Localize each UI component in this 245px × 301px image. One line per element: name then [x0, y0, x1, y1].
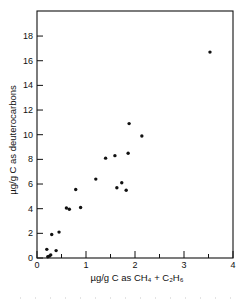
- y-tick-label: 16: [23, 56, 33, 66]
- y-tick-label: 2: [28, 228, 33, 238]
- y-tick-label: 6: [28, 179, 33, 189]
- data-point: [113, 154, 116, 157]
- x-tick-label: 2: [132, 260, 137, 270]
- data-point: [79, 206, 82, 209]
- data-point: [127, 122, 130, 125]
- data-point: [140, 134, 143, 137]
- data-point: [124, 188, 127, 191]
- x-tick-label: 4: [230, 260, 235, 270]
- data-point: [65, 206, 68, 209]
- y-tick-label: 14: [23, 80, 33, 90]
- y-tick-label: 10: [23, 130, 33, 140]
- y-tick-label: 12: [23, 105, 33, 115]
- data-point: [49, 253, 52, 256]
- y-tick-label: 18: [23, 31, 33, 41]
- x-tick-label: 1: [83, 260, 88, 270]
- data-point: [208, 50, 211, 53]
- data-point: [45, 248, 48, 251]
- data-point: [74, 188, 77, 191]
- x-axis-title: µg/g C as CH₄ + C₂H₆: [90, 272, 183, 283]
- x-tick-label: 0: [34, 260, 39, 270]
- data-point: [94, 177, 97, 180]
- plot-frame: [37, 11, 233, 258]
- data-point: [68, 208, 71, 211]
- data-point: [50, 233, 53, 236]
- data-point: [57, 230, 60, 233]
- y-axis-title: µg/g C as deuterocarbons: [7, 85, 18, 195]
- y-axis-ticks: 024681012141618: [23, 31, 43, 263]
- data-points: [45, 50, 212, 258]
- y-tick-label: 8: [28, 154, 33, 164]
- x-axis-ticks: 01234: [34, 251, 235, 270]
- data-point: [120, 181, 123, 184]
- data-point: [115, 186, 118, 189]
- x-tick-label: 3: [181, 260, 186, 270]
- y-tick-label: 4: [28, 204, 33, 214]
- data-point: [126, 151, 129, 154]
- scatter-chart: 01234 024681012141618 µg/g C as CH₄ + C₂…: [0, 0, 245, 301]
- data-point: [54, 249, 57, 252]
- data-point: [104, 156, 107, 159]
- y-tick-label: 0: [28, 253, 33, 263]
